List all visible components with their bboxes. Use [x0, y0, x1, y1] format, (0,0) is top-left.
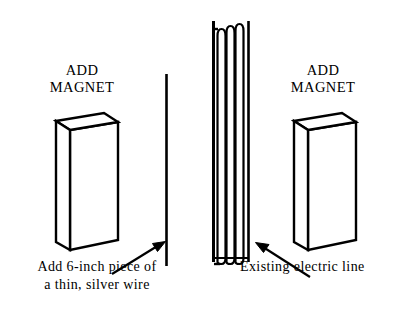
right-arrow-head: [256, 243, 270, 253]
right-magnet-side-face: [294, 121, 308, 250]
left-magnet-front-face: [70, 122, 118, 250]
electric-line-caption-line1: Existing electric line: [240, 258, 415, 276]
coil-rail-tick-1: [212, 95, 215, 99]
right-add-magnet-line1: ADD: [258, 62, 388, 79]
silver-wire-caption-line2: a thin, silver wire: [2, 276, 192, 294]
left-add-magnet-line1: ADD: [22, 62, 142, 79]
coil-rail-tick-2: [212, 145, 215, 150]
coil-turn-2: [227, 26, 235, 264]
left-magnet-side-face: [56, 121, 70, 250]
electric-line-caption: Existing electric line: [240, 258, 415, 276]
right-add-magnet-line2: MAGNET: [258, 79, 388, 96]
left-add-magnet-label: ADD MAGNET: [22, 62, 142, 96]
left-magnet-shape: [56, 113, 118, 250]
left-arrow-head: [153, 242, 166, 252]
left-add-magnet-line2: MAGNET: [22, 79, 142, 96]
coil-turn-1: [218, 29, 226, 264]
silver-wire-caption-line1: Add 6-inch piece of: [2, 258, 192, 276]
electric-line-coil: [212, 21, 249, 264]
right-magnet-front-face: [308, 122, 356, 250]
right-magnet-shape: [294, 113, 356, 250]
diagram-canvas: ADD MAGNET ADD MAGNET Add 6-inch piece o…: [0, 0, 415, 323]
coil-turn-3: [236, 24, 244, 264]
right-add-magnet-label: ADD MAGNET: [258, 62, 388, 96]
silver-wire-caption: Add 6-inch piece of a thin, silver wire: [2, 258, 192, 294]
